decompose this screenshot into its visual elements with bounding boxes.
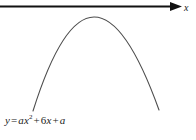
equation-plus-1: + [33,114,41,126]
equation-annotation: y=ax2+6x+a [5,115,65,126]
x-axis-arrowhead-icon [170,2,182,11]
equation-plus-2: + [51,114,59,126]
math-figure: x y=ax2+6x+a [0,0,196,140]
equation-term1-exponent: 2 [29,113,33,121]
equation-term3: a [60,114,66,126]
x-axis-label: x [184,3,188,13]
x-axis [0,2,182,11]
parabola-path [33,17,159,111]
parabola-curve [33,17,159,111]
